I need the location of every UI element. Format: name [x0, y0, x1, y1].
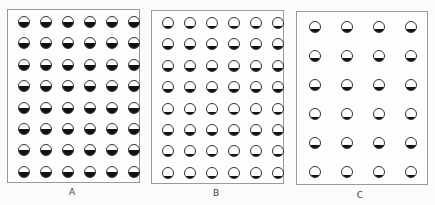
filled-circle-icon — [162, 81, 174, 93]
filled-circle-icon — [18, 144, 30, 156]
filled-circle-icon — [309, 137, 321, 149]
filled-circle-icon — [309, 166, 321, 178]
filled-circle-icon — [250, 167, 262, 179]
filled-circle-icon — [373, 79, 385, 91]
filled-circle-icon — [373, 108, 385, 120]
filled-circle-icon — [405, 108, 417, 120]
filled-circle-icon — [341, 137, 353, 149]
filled-circle-icon — [341, 21, 353, 33]
filled-circle-icon — [106, 59, 118, 71]
filled-circle-icon — [206, 17, 218, 29]
filled-circle-icon — [184, 103, 196, 115]
filled-circle-icon — [18, 123, 30, 135]
dot-grid-a — [18, 16, 140, 178]
filled-circle-icon — [250, 38, 262, 50]
filled-circle-icon — [272, 17, 284, 29]
filled-circle-icon — [128, 144, 140, 156]
dot-grid-c — [309, 21, 417, 178]
filled-circle-icon — [184, 124, 196, 136]
filled-circle-icon — [162, 103, 174, 115]
filled-circle-icon — [106, 37, 118, 49]
filled-circle-icon — [62, 80, 74, 92]
filled-circle-icon — [405, 50, 417, 62]
filled-circle-icon — [228, 81, 240, 93]
filled-circle-icon — [228, 167, 240, 179]
filled-circle-icon — [62, 59, 74, 71]
filled-circle-icon — [405, 166, 417, 178]
filled-circle-icon — [162, 38, 174, 50]
filled-circle-icon — [162, 60, 174, 72]
filled-circle-icon — [250, 81, 262, 93]
filled-circle-icon — [341, 50, 353, 62]
filled-circle-icon — [228, 145, 240, 157]
filled-circle-icon — [206, 81, 218, 93]
filled-circle-icon — [84, 144, 96, 156]
filled-circle-icon — [62, 102, 74, 114]
filled-circle-icon — [84, 166, 96, 178]
panel-label-c: C — [350, 190, 370, 200]
filled-circle-icon — [250, 17, 262, 29]
filled-circle-icon — [106, 80, 118, 92]
panel-label-a: A — [62, 187, 82, 197]
filled-circle-icon — [309, 108, 321, 120]
dot-grid-b — [162, 17, 284, 179]
filled-circle-icon — [62, 166, 74, 178]
filled-circle-icon — [184, 167, 196, 179]
filled-circle-icon — [184, 17, 196, 29]
filled-circle-icon — [40, 37, 52, 49]
filled-circle-icon — [162, 124, 174, 136]
filled-circle-icon — [162, 145, 174, 157]
filled-circle-icon — [272, 124, 284, 136]
filled-circle-icon — [228, 124, 240, 136]
filled-circle-icon — [309, 50, 321, 62]
filled-circle-icon — [341, 108, 353, 120]
filled-circle-icon — [341, 79, 353, 91]
filled-circle-icon — [40, 123, 52, 135]
filled-circle-icon — [206, 167, 218, 179]
filled-circle-icon — [18, 59, 30, 71]
filled-circle-icon — [373, 50, 385, 62]
filled-circle-icon — [128, 102, 140, 114]
filled-circle-icon — [18, 80, 30, 92]
filled-circle-icon — [272, 81, 284, 93]
filled-circle-icon — [373, 166, 385, 178]
panel-b — [151, 10, 284, 184]
filled-circle-icon — [405, 79, 417, 91]
filled-circle-icon — [250, 103, 262, 115]
filled-circle-icon — [373, 137, 385, 149]
filled-circle-icon — [228, 103, 240, 115]
filled-circle-icon — [106, 123, 118, 135]
filled-circle-icon — [250, 145, 262, 157]
filled-circle-icon — [184, 81, 196, 93]
filled-circle-icon — [206, 60, 218, 72]
filled-circle-icon — [309, 79, 321, 91]
filled-circle-icon — [228, 60, 240, 72]
filled-circle-icon — [40, 166, 52, 178]
filled-circle-icon — [84, 102, 96, 114]
filled-circle-icon — [40, 144, 52, 156]
filled-circle-icon — [128, 80, 140, 92]
filled-circle-icon — [373, 21, 385, 33]
filled-circle-icon — [40, 16, 52, 28]
filled-circle-icon — [162, 17, 174, 29]
filled-circle-icon — [250, 60, 262, 72]
filled-circle-icon — [62, 16, 74, 28]
filled-circle-icon — [405, 21, 417, 33]
panel-label-b: B — [206, 188, 226, 198]
filled-circle-icon — [228, 17, 240, 29]
filled-circle-icon — [128, 59, 140, 71]
filled-circle-icon — [106, 16, 118, 28]
filled-circle-icon — [18, 166, 30, 178]
filled-circle-icon — [184, 145, 196, 157]
filled-circle-icon — [18, 102, 30, 114]
filled-circle-icon — [272, 103, 284, 115]
filled-circle-icon — [272, 145, 284, 157]
filled-circle-icon — [184, 38, 196, 50]
filled-circle-icon — [206, 103, 218, 115]
filled-circle-icon — [162, 167, 174, 179]
filled-circle-icon — [18, 16, 30, 28]
panel-c — [296, 11, 428, 185]
filled-circle-icon — [40, 59, 52, 71]
filled-circle-icon — [206, 145, 218, 157]
filled-circle-icon — [40, 80, 52, 92]
